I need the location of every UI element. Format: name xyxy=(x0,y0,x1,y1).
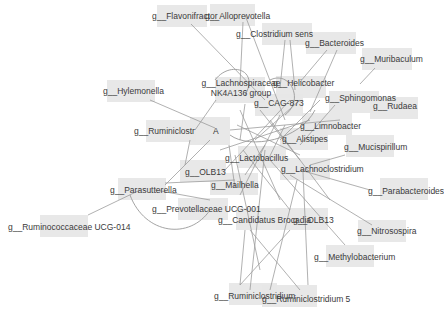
node-label: g__OLB13 xyxy=(293,215,334,225)
edge xyxy=(240,104,245,140)
node-label: g__Lactobacillus xyxy=(225,153,288,163)
node-label: g__Mucispirillum xyxy=(344,142,407,152)
node-label: g__Alistipes xyxy=(282,134,328,144)
node-label: g__CAG-873 xyxy=(254,98,304,108)
edge xyxy=(165,140,210,185)
node-label: g__Clostridium sens xyxy=(236,29,313,39)
edge xyxy=(240,230,245,285)
node-label: g__Limnobacter xyxy=(300,121,361,131)
node-label: g__Methylobacterium xyxy=(314,252,395,262)
node-label: g__Mailhella xyxy=(211,180,259,190)
node-label: g__Ruminiclostr xyxy=(134,126,195,136)
node-label: g__Hylemonella xyxy=(103,86,164,96)
edge xyxy=(270,180,297,290)
edge xyxy=(240,230,290,285)
node-label: g__Ruminococcaceae UCG-014 xyxy=(8,222,130,232)
edge xyxy=(360,68,375,84)
edge xyxy=(150,100,215,128)
node-label: g__OLB13 xyxy=(185,167,226,177)
node-label: g__Parasutterella xyxy=(110,185,177,195)
node-label: g__Muribaculum xyxy=(360,54,423,64)
node-label: g__Alloprevotella xyxy=(205,11,270,21)
node-label: g__Ruminiclostridium 5 xyxy=(262,294,350,304)
node-label: A xyxy=(213,126,219,136)
node-label: g__Parabacteroides xyxy=(368,186,444,196)
node-label: g__Prevotellaceae UCG-001 xyxy=(152,204,261,214)
node-label: g__Helicobacter xyxy=(273,78,334,88)
node-label: g__Bacteroides xyxy=(305,38,364,48)
node-label: g__Rudaea xyxy=(373,101,417,111)
node-label: g__Nitrosospira xyxy=(357,226,417,236)
edge xyxy=(303,172,308,285)
node-label: g__Lachnoclostridium xyxy=(281,164,364,174)
